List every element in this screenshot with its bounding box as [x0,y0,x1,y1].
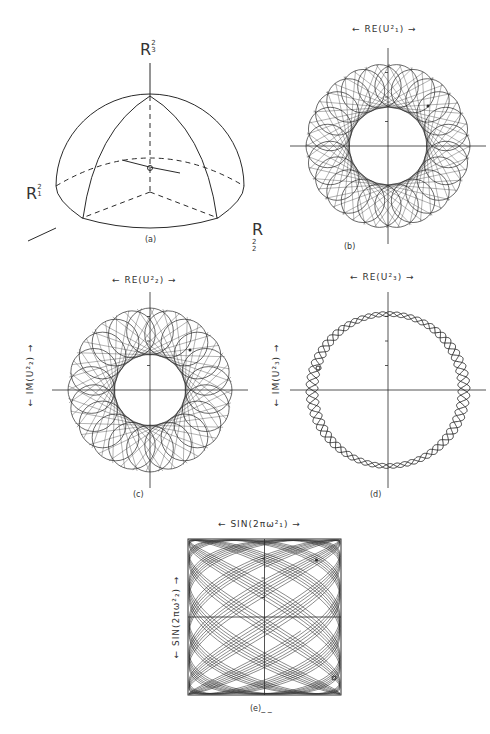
caption-b: (b) [344,242,355,251]
plot-e-torus-projection [187,538,344,698]
ylabel-d: ← IM(U²₃) → [271,325,281,425]
ylabel-e: ← SIN(2πω²₂) → [171,547,181,687]
xlabel-d: ← RE(U²₃) → [350,272,415,282]
caption-a: (a) [145,235,156,244]
plot-c-rosette [50,290,250,490]
axis-label-r3: R 23 [140,40,156,59]
caption-c: (c) [133,490,144,499]
plot-d-braided-ring [288,290,488,490]
caption-e: (e)_ _ [250,704,272,713]
xlabel-b: ← RE(U²₁) → [352,24,417,34]
panel-a-hemisphere: R 23 R 21 R 22 (a) [0,0,245,230]
ylabel-c: ← IM(U²₂) → [25,325,35,425]
xlabel-c: ← RE(U²₂) → [112,275,177,285]
caption-d: (d) [370,490,381,499]
plot-b-rosette [288,46,488,246]
xlabel-e: ← SIN(2πω²₁) → [218,519,301,529]
axis-label-r2: R 22 [252,220,263,258]
axis-label-r1: R 21 [26,184,42,203]
